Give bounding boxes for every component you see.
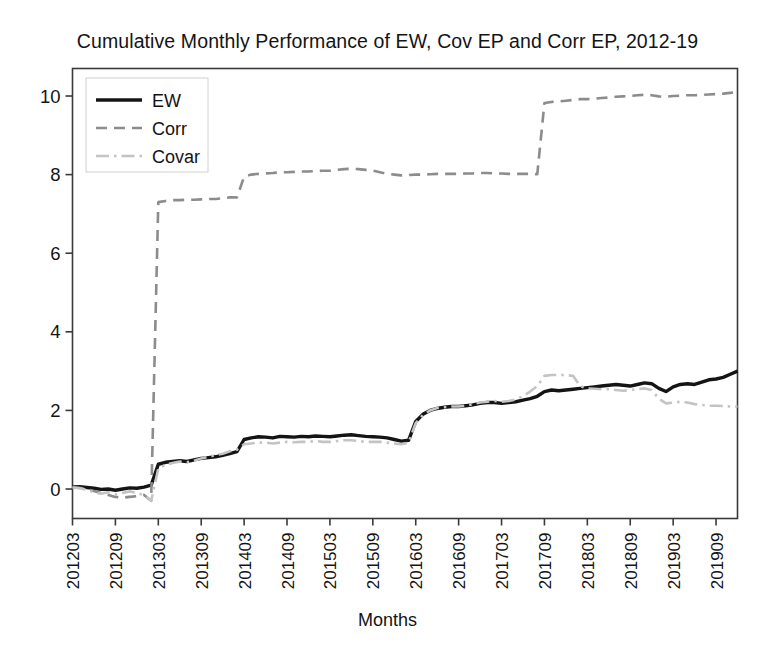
x-tick-label: 201809: [622, 533, 641, 590]
y-tick-label: 0: [50, 479, 60, 500]
x-tick-label: 201509: [364, 533, 383, 590]
y-tick-label: 6: [50, 243, 60, 264]
x-tick-label: 201309: [193, 533, 212, 590]
y-tick-label: 8: [50, 164, 60, 185]
chart-legend: EWCorrCovar: [86, 78, 208, 172]
x-tick-label: 201903: [665, 533, 684, 590]
x-axis-title: Months: [0, 610, 775, 631]
x-axis-ticks: 2012032012092013032013092014032014092015…: [64, 519, 727, 590]
legend-label-covar: Covar: [152, 147, 200, 167]
x-tick-label: 201709: [536, 533, 555, 590]
x-tick-label: 201209: [107, 533, 126, 590]
y-tick-label: 2: [50, 400, 60, 421]
y-axis-ticks: 0246810: [40, 86, 73, 500]
x-tick-label: 201609: [450, 533, 469, 590]
x-tick-label: 201503: [321, 533, 340, 590]
series-line-covar: [73, 375, 738, 501]
x-tick-label: 201909: [708, 533, 727, 590]
series-line-ew: [73, 371, 738, 490]
y-tick-label: 10: [40, 86, 61, 107]
x-tick-label: 201603: [407, 533, 426, 590]
chart-figure: Cumulative Monthly Performance of EW, Co…: [0, 0, 775, 661]
x-tick-label: 201203: [64, 533, 83, 590]
x-tick-label: 201303: [150, 533, 169, 590]
legend-label-ew: EW: [152, 91, 181, 111]
y-tick-label: 4: [50, 321, 60, 342]
x-tick-label: 201409: [279, 533, 298, 590]
x-tick-label: 201803: [579, 533, 598, 590]
legend-label-corr: Corr: [152, 119, 187, 139]
plot-area: 0246810 20120320120920130320130920140320…: [0, 0, 775, 661]
x-tick-label: 201703: [493, 533, 512, 590]
x-tick-label: 201403: [236, 533, 255, 590]
